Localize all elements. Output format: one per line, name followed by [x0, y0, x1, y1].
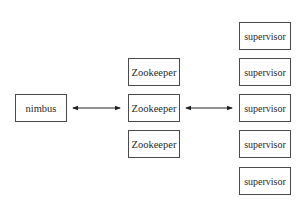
- connector-layer: [0, 0, 305, 208]
